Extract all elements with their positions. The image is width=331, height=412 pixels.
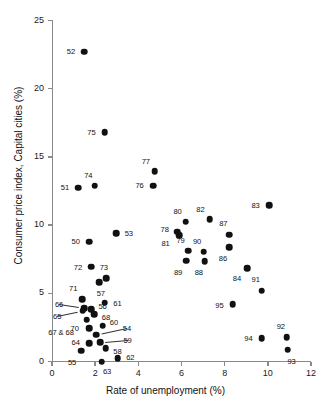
data-point-label: 77 — [142, 156, 150, 165]
x-tick-mark — [267, 362, 268, 366]
data-point — [244, 265, 251, 272]
data-point — [202, 258, 209, 265]
x-tick-mark — [94, 362, 95, 366]
y-tick-label: 5 — [22, 287, 44, 297]
data-point-label: 66 — [55, 300, 63, 309]
x-tick-label: 0 — [41, 368, 63, 378]
data-point-label: 87 — [219, 219, 227, 228]
y-tick-mark — [48, 293, 52, 294]
data-point-label: 50 — [72, 237, 80, 246]
data-point-label: 62 — [126, 353, 134, 362]
data-point-label: 89 — [174, 267, 182, 276]
data-point-label: 72 — [74, 263, 82, 272]
data-point-label: 65 — [53, 311, 61, 320]
data-point — [97, 339, 104, 346]
data-point — [75, 184, 82, 191]
data-point-label: 79 — [177, 235, 185, 244]
data-point — [86, 325, 93, 332]
data-point — [185, 247, 192, 254]
data-point-label: 74 — [84, 170, 92, 179]
data-point — [83, 317, 90, 324]
data-point-label: 55 — [68, 357, 76, 366]
data-point — [102, 129, 109, 136]
data-point-label: 94 — [244, 333, 252, 342]
y-tick-label: 20 — [22, 83, 44, 93]
x-tick-mark — [51, 362, 52, 366]
data-point-label: 60 — [110, 317, 118, 326]
data-point-label: 64 — [72, 338, 80, 347]
y-tick-label: 25 — [22, 15, 44, 25]
data-point — [115, 355, 122, 362]
y-tick-label: 0 — [22, 356, 44, 366]
x-tick-label: 6 — [171, 368, 193, 378]
data-point-label: 73 — [100, 263, 108, 272]
data-point-label: 75 — [87, 127, 95, 136]
data-point-label: 71 — [69, 284, 77, 293]
data-point — [81, 49, 88, 56]
data-point-label: 54 — [123, 324, 131, 333]
data-point-label: 56 — [98, 302, 106, 311]
y-tick-mark — [48, 156, 52, 157]
data-point-label: 86 — [219, 253, 227, 262]
data-point — [266, 202, 273, 209]
data-point-label: 78 — [161, 225, 169, 234]
data-point-label: 93 — [287, 357, 295, 366]
data-point-label: 81 — [161, 238, 169, 247]
scatter-chart: 0510152025024681012 52757776745183828078… — [0, 0, 331, 412]
data-point — [79, 296, 86, 303]
data-point — [284, 347, 291, 354]
data-point — [284, 334, 291, 341]
y-axis-title: Consumer price index, Capital cities (%) — [13, 6, 24, 346]
x-tick-mark — [181, 362, 182, 366]
x-axis-title: Rate of unemployment (%) — [0, 385, 331, 396]
x-tick-label: 10 — [257, 368, 279, 378]
data-point-label: 95 — [215, 301, 223, 310]
data-point — [91, 311, 98, 318]
x-tick-mark — [138, 362, 139, 366]
x-tick-label: 4 — [127, 368, 149, 378]
data-point-label: 91 — [252, 275, 260, 284]
data-point — [226, 231, 233, 238]
data-point-label: 51 — [61, 183, 69, 192]
y-tick-mark — [48, 20, 52, 21]
y-tick-label: 10 — [22, 219, 44, 229]
data-point-label: 88 — [195, 268, 203, 277]
data-point-label: 76 — [136, 180, 144, 189]
y-tick-mark — [48, 88, 52, 89]
data-point-label: 59 — [123, 335, 131, 344]
data-point-label: 83 — [251, 200, 259, 209]
data-point — [226, 244, 233, 251]
data-point — [258, 287, 265, 294]
data-point-label: 80 — [173, 206, 181, 215]
x-tick-label: 8 — [214, 368, 236, 378]
plot-area: 0510152025024681012 52757776745183828078… — [0, 0, 331, 412]
data-point-label: 92 — [277, 322, 285, 331]
data-point-label: 52 — [67, 46, 75, 55]
x-tick-mark — [310, 362, 311, 366]
data-point — [88, 263, 95, 270]
data-point — [98, 358, 105, 365]
data-point — [86, 238, 93, 245]
data-point-label: 90 — [193, 236, 201, 245]
data-point-label: 67 & 68 — [48, 327, 73, 336]
data-point-label: 61 — [113, 298, 121, 307]
data-point-label: 57 — [97, 289, 105, 298]
data-point — [258, 335, 265, 342]
data-point — [79, 307, 86, 314]
data-point — [96, 279, 103, 286]
data-point — [86, 340, 93, 347]
data-point — [113, 230, 120, 237]
data-point — [183, 218, 190, 225]
data-point — [91, 182, 98, 189]
data-point-label: 82 — [196, 204, 204, 213]
data-point-label: 53 — [125, 229, 133, 238]
data-point — [230, 301, 237, 308]
data-point — [206, 216, 213, 223]
x-tick-label: 12 — [300, 368, 322, 378]
data-point — [200, 248, 207, 255]
data-point — [151, 168, 158, 175]
data-point — [150, 182, 157, 189]
y-tick-label: 15 — [22, 151, 44, 161]
data-point-label: 63 — [103, 367, 111, 376]
x-tick-mark — [224, 362, 225, 366]
